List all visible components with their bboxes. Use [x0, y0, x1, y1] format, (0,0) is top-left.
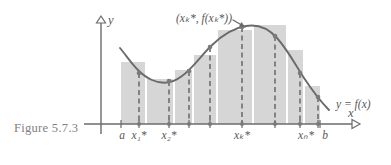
- curve-sample-point-marker: [273, 34, 278, 39]
- sample-point-annotation-label: (xₖ*, f(xₖ*)): [176, 12, 232, 25]
- axis-sample-dot: [167, 122, 171, 126]
- figure-container: Figure 5.7.3 y x y = f(x) (xₖ*, f(xₖ*)) …: [0, 0, 391, 165]
- riemann-rectangle: [194, 55, 216, 124]
- axis-tick-label-xn: xₙ*: [297, 129, 314, 141]
- riemann-rectangle: [254, 25, 286, 124]
- riemann-rectangle: [288, 50, 303, 124]
- curve-sample-point-marker: [167, 79, 172, 84]
- axis-sample-dot: [208, 122, 212, 126]
- axis-sample-dot: [298, 122, 302, 126]
- riemann-sum-plot: y x y = f(x) (xₖ*, f(xₖ*)) ax₁*x₂*xₖ*xₙ*…: [0, 0, 391, 165]
- y-axis-arrowhead: [97, 16, 106, 23]
- riemann-rectangle: [218, 30, 252, 124]
- axis-sample-dot: [137, 122, 141, 126]
- axis-sample-dot: [273, 122, 277, 126]
- axis-tick-label-a: a: [119, 129, 125, 141]
- axis-tick-label-xk: xₖ*: [233, 129, 250, 141]
- axis-tick-label-x2: x₂*: [161, 129, 177, 141]
- axis-tick-label-x1: x₁*: [131, 129, 147, 141]
- y-axis-label: y: [106, 13, 114, 27]
- axis-tick-label-b: b: [322, 129, 328, 141]
- curve-sample-point-marker: [208, 45, 213, 50]
- axis-sample-dot: [187, 122, 191, 126]
- axis-tick-labels-group: ax₁*x₂*xₖ*xₙ*b: [119, 129, 328, 141]
- axis-sample-dot: [240, 122, 244, 126]
- riemann-rectangle: [121, 62, 145, 124]
- axis-sample-dot: [316, 122, 320, 126]
- curve-equation-label: y = f(x): [335, 98, 371, 111]
- curve-sample-point-marker: [298, 71, 303, 76]
- riemann-rectangles-group: [121, 25, 320, 124]
- curve-sample-point-marker: [137, 71, 142, 76]
- curve-sample-point-marker: [187, 69, 192, 74]
- annotation-arrow: [233, 20, 245, 27]
- x-axis-arrowhead: [352, 120, 360, 129]
- curve-sample-point-marker: [316, 95, 321, 100]
